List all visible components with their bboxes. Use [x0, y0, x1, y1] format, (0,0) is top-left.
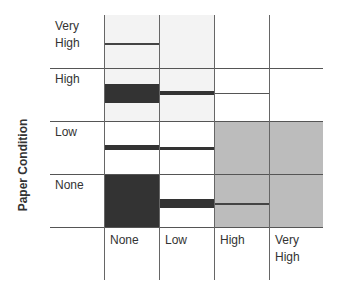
- row-label-none: None: [55, 177, 84, 194]
- bar-high-low: [159, 91, 214, 95]
- col-label-low: Low: [165, 232, 187, 249]
- col-label-very-high-line1: Very: [275, 232, 300, 249]
- row-label-very-high-line1: Very: [55, 18, 80, 35]
- bar-none-low: [159, 199, 214, 208]
- col-label-none-text: None: [110, 232, 139, 249]
- grid-vline-2: [159, 15, 160, 280]
- bar-high-none: [105, 84, 159, 103]
- bar-high-high: [214, 93, 269, 94]
- grid-hline-1: [50, 68, 323, 69]
- bar-none-high: [214, 203, 269, 205]
- col-label-high: High: [220, 232, 245, 249]
- row-label-very-high: Very High: [55, 18, 80, 52]
- grid-vline-3: [214, 15, 215, 280]
- grid-vline-1: [104, 15, 105, 280]
- bar-none-none: [105, 175, 159, 227]
- col-label-high-text: High: [220, 232, 245, 249]
- row-label-high: High: [55, 71, 80, 88]
- col-label-low-text: Low: [165, 232, 187, 249]
- grid-hline-2: [50, 121, 323, 122]
- grid-vline-4: [269, 15, 270, 280]
- grid-hline-3: [50, 174, 323, 175]
- grid-hline-4: [50, 227, 323, 228]
- bar-veryhigh-none: [105, 43, 159, 45]
- row-label-very-high-line2: High: [55, 35, 80, 52]
- row-label-low-text: Low: [55, 124, 77, 141]
- col-label-none: None: [110, 232, 139, 249]
- bar-low-low: [159, 147, 214, 150]
- row-label-high-text: High: [55, 71, 80, 88]
- row-label-none-text: None: [55, 177, 84, 194]
- col-label-very-high-line2: High: [275, 249, 300, 266]
- col-label-very-high: Very High: [275, 232, 300, 266]
- y-axis-title: Paper Condition: [16, 119, 30, 212]
- bar-low-none: [105, 145, 159, 150]
- row-label-low: Low: [55, 124, 77, 141]
